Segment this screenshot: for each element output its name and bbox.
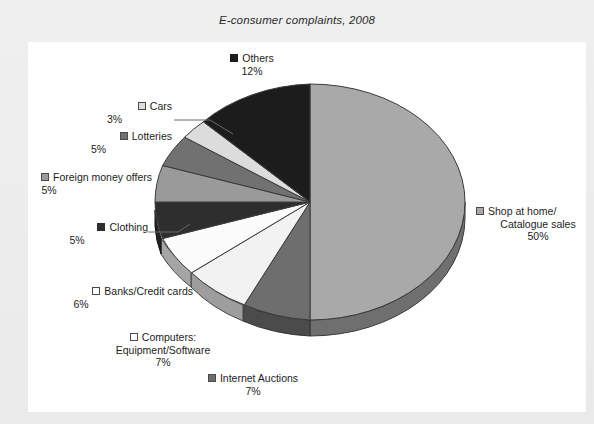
- swatch-internet-auctions-icon: [208, 374, 216, 382]
- label-clothing: Clothing 5%: [36, 221, 148, 246]
- label-foreign-money-offers-name: Foreign money offers: [53, 171, 152, 184]
- label-shop-at-home-name-line2: Catalogue sales: [476, 218, 588, 231]
- swatch-shop-at-home-icon: [476, 207, 484, 215]
- label-shop-at-home-name: Shop at home/: [488, 205, 556, 218]
- label-shop-at-home-pct: 50%: [476, 230, 588, 243]
- label-banks-credit-cards-pct: 6%: [39, 298, 193, 311]
- swatch-foreign-money-offers-icon: [41, 173, 49, 181]
- label-cars-pct: 3%: [75, 113, 172, 126]
- chart-panel: Others 12% Cars 3% Lotteries 5% Foreign …: [28, 42, 586, 412]
- label-computers: Computers: Equipment/Software 7%: [90, 331, 236, 369]
- label-others-name: Others: [242, 52, 274, 65]
- label-lotteries-name: Lotteries: [132, 130, 172, 143]
- label-shop-at-home: Shop at home/ Catalogue sales 50%: [476, 205, 588, 243]
- swatch-clothing-icon: [97, 223, 105, 231]
- swatch-cars-icon: [138, 102, 146, 110]
- label-computers-name-line2: Equipment/Software: [90, 344, 236, 357]
- label-internet-auctions: Internet Auctions 7%: [178, 372, 328, 397]
- swatch-banks-credit-cards-icon: [92, 287, 100, 295]
- label-internet-auctions-name: Internet Auctions: [220, 372, 298, 385]
- label-banks-credit-cards: Banks/Credit cards 6%: [39, 285, 193, 310]
- page-background: E-consumer complaints, 2008: [0, 0, 594, 424]
- label-foreign-money-offers: Foreign money offers 5%: [8, 171, 152, 196]
- label-clothing-pct: 5%: [36, 234, 148, 247]
- label-cars: Cars 3%: [75, 100, 172, 125]
- chart-title: E-consumer complaints, 2008: [0, 14, 594, 26]
- label-foreign-money-offers-pct: 5%: [8, 184, 152, 197]
- swatch-lotteries-icon: [120, 132, 128, 140]
- label-clothing-name: Clothing: [109, 221, 148, 234]
- swatch-computers-icon: [130, 333, 138, 341]
- label-internet-auctions-pct: 7%: [178, 385, 328, 398]
- label-banks-credit-cards-name: Banks/Credit cards: [104, 285, 193, 298]
- label-computers-pct: 7%: [90, 356, 236, 369]
- label-cars-name: Cars: [150, 100, 172, 113]
- pie-slice-shop-at-home[interactable]: [310, 84, 465, 320]
- label-lotteries: Lotteries 5%: [55, 130, 172, 155]
- label-others: Others 12%: [192, 52, 312, 77]
- swatch-others-icon: [230, 54, 238, 62]
- label-others-pct: 12%: [192, 65, 312, 78]
- label-lotteries-pct: 5%: [55, 143, 172, 156]
- label-computers-name: Computers:: [142, 331, 196, 344]
